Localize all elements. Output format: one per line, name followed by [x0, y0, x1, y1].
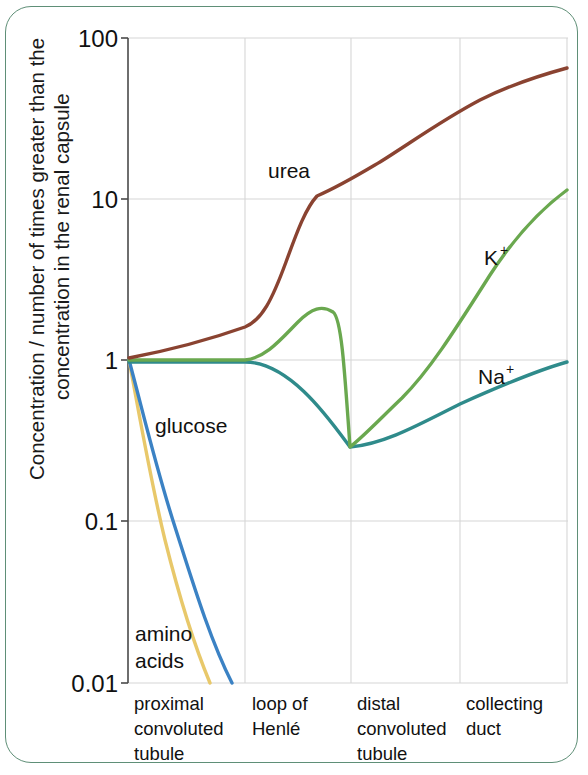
- series-label-urea: urea: [268, 159, 310, 182]
- y-axis-title-line2: concentration in the renal capsule: [50, 93, 73, 400]
- curve-potassium: [129, 190, 567, 447]
- x-category-1-line2: Henlé: [252, 718, 300, 739]
- y-tick-10: 10: [91, 186, 118, 213]
- series-label-glucose: glucose: [155, 414, 227, 437]
- y-axis-spine: [121, 38, 128, 683]
- x-category-0-line3: tubule: [134, 743, 184, 764]
- series-label-amino-acids-line2: acids: [135, 649, 184, 672]
- x-category-1-line1: loop of: [252, 693, 308, 714]
- y-axis-title: Concentration / number of times greater …: [25, 38, 73, 480]
- x-category-2-line2: convoluted: [357, 718, 446, 739]
- x-category-0-line1: proximal: [134, 693, 204, 714]
- x-category-2-line1: distal: [357, 693, 400, 714]
- y-tick-1: 1: [105, 347, 118, 374]
- y-axis-title-line1: Concentration / number of times greater …: [25, 38, 48, 480]
- series-label-potassium: K +: [484, 242, 508, 269]
- kidney-nephron-concentration-chart: 100 10 1 0.1 0.01 Concentration / number…: [0, 0, 588, 775]
- x-category-0-line2: convoluted: [134, 718, 223, 739]
- series-label-sodium-base: Na: [478, 365, 505, 388]
- y-tick-100: 100: [78, 25, 118, 52]
- y-tick-0.01: 0.01: [71, 670, 118, 697]
- figure-container: 100 10 1 0.1 0.01 Concentration / number…: [0, 0, 588, 775]
- y-tick-0.1: 0.1: [85, 508, 118, 535]
- series-label-amino-acids-line1: amino: [135, 622, 192, 645]
- curve-urea: [129, 68, 567, 358]
- x-category-3-line2: duct: [466, 718, 501, 739]
- series-label-potassium-superscript: +: [500, 242, 508, 258]
- x-category-labels: proximal convoluted tubule loop of Henlé…: [134, 693, 543, 764]
- series-label-sodium-superscript: +: [506, 361, 514, 377]
- x-category-2-line3: tubule: [357, 743, 407, 764]
- x-category-3-line1: collecting: [466, 693, 543, 714]
- series-label-potassium-base: K: [484, 246, 498, 269]
